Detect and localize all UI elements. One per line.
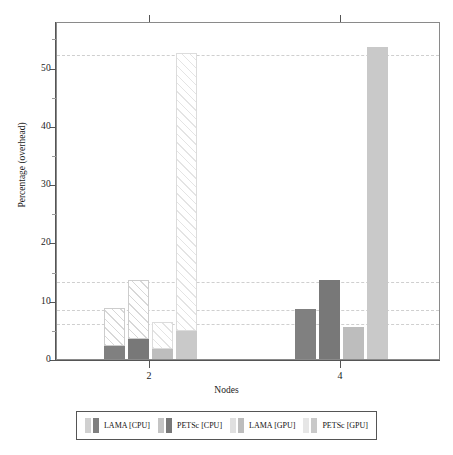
plot-inner <box>57 23 439 359</box>
y-tick-label-30: 30 <box>11 179 51 189</box>
y-tick-label-40: 40 <box>11 121 51 131</box>
bar-segment-hatched <box>104 308 125 346</box>
bar-segment-solid <box>295 309 316 359</box>
bar-lama-cpu-nodes-2 <box>104 308 125 359</box>
x-tick-label-2: 2 <box>129 370 169 381</box>
y-tick-label-20: 20 <box>11 237 51 247</box>
bar-segment-hatched <box>176 53 197 331</box>
x-tick-top-2 <box>149 15 150 22</box>
y-tick-label-0: 0 <box>11 354 51 364</box>
bar-segment-solid <box>152 349 173 359</box>
legend-swatch-hatched-icon <box>230 418 236 433</box>
legend-swatch-solid-icon <box>238 418 244 433</box>
y-axis-title: Percentage (overhead) <box>17 65 27 265</box>
bar-segment-solid <box>176 331 197 359</box>
bar-segment-solid <box>128 339 149 359</box>
legend-label: PETSc [GPU] <box>322 421 368 430</box>
y-tick-label-10: 10 <box>11 296 51 306</box>
bar-segment-solid <box>343 327 364 359</box>
x-tick-label-4: 4 <box>320 370 360 381</box>
legend-swatch-solid-icon <box>311 418 317 433</box>
legend-item-lama-gpu[interactable]: LAMA [GPU] <box>230 418 295 433</box>
bar-petsc-cpu-nodes-4 <box>319 280 340 359</box>
x-tick-top-4 <box>340 15 341 22</box>
bar-petsc-cpu-nodes-2 <box>128 280 149 359</box>
legend-item-petsc-gpu[interactable]: PETSc [GPU] <box>303 418 368 433</box>
bar-chart: Percentage (overhead) 01020304050 2 4 No… <box>0 0 453 455</box>
bar-segment-solid <box>367 47 388 359</box>
legend-swatch-hatched-icon <box>85 418 91 433</box>
legend-label: LAMA [CPU] <box>104 421 150 430</box>
legend-label: LAMA [GPU] <box>249 421 295 430</box>
y-tick-label-50: 50 <box>11 63 51 73</box>
legend-swatch-solid-icon <box>166 418 172 433</box>
legend-swatches <box>85 418 99 433</box>
bar-lama-cpu-nodes-4 <box>295 309 316 359</box>
legend-item-petsc-cpu[interactable]: PETSc [CPU] <box>158 418 222 433</box>
legend-swatches <box>158 418 172 433</box>
bar-petsc-gpu-nodes-2 <box>176 53 197 359</box>
x-tick-2 <box>149 361 150 368</box>
legend: LAMA [CPU]PETSc [CPU]LAMA [GPU]PETSc [GP… <box>76 411 377 440</box>
x-axis-line <box>56 360 440 361</box>
bar-segment-hatched <box>152 322 173 349</box>
legend-swatches <box>230 418 244 433</box>
legend-swatch-hatched-icon <box>158 418 164 433</box>
legend-item-lama-cpu[interactable]: LAMA [CPU] <box>85 418 150 433</box>
bar-segment-solid <box>104 346 125 359</box>
bar-lama-gpu-nodes-2 <box>152 322 173 359</box>
bar-segment-solid <box>319 280 340 359</box>
bar-segment-hatched <box>128 280 149 338</box>
bar-lama-gpu-nodes-4 <box>343 327 364 359</box>
legend-swatches <box>303 418 317 433</box>
legend-swatch-solid-icon <box>93 418 99 433</box>
legend-label: PETSc [CPU] <box>177 421 222 430</box>
legend-swatch-hatched-icon <box>303 418 309 433</box>
x-axis-title: Nodes <box>0 385 453 395</box>
plot-area <box>56 22 440 360</box>
bar-petsc-gpu-nodes-4 <box>367 47 388 359</box>
x-tick-4 <box>340 361 341 368</box>
